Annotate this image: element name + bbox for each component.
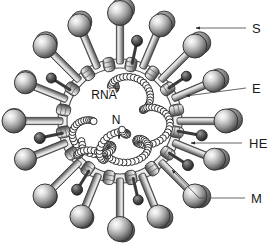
he-knob: [72, 184, 83, 195]
n-protein-bead: [90, 118, 97, 125]
spike-protein: [2, 108, 63, 133]
spike-head: [33, 184, 57, 208]
he-knob: [182, 160, 193, 171]
label-he: HE: [249, 136, 268, 151]
spike-protein: [33, 159, 82, 208]
spike-head: [2, 109, 26, 133]
spike-head: [149, 14, 172, 37]
n-protein-bead: [119, 126, 126, 133]
he-knob: [133, 195, 143, 205]
spike-protein: [171, 69, 229, 102]
spike-protein: [70, 173, 102, 229]
spike-head: [70, 205, 93, 228]
label-rna: RNA: [91, 88, 116, 102]
spike-head: [183, 34, 207, 58]
spike-protein: [33, 32, 82, 84]
he-protein: [132, 35, 143, 63]
spike-head: [14, 148, 36, 170]
spike-head: [203, 70, 225, 92]
spike-head: [68, 14, 91, 37]
spike-protein: [172, 139, 230, 170]
he-protein: [169, 153, 193, 170]
he-knob: [46, 73, 56, 83]
virion-illustration: SEHEM RNARNANN: [0, 0, 273, 243]
spike-protein: [108, 178, 135, 242]
he-protein: [72, 171, 89, 195]
spike-head: [183, 184, 207, 208]
he-knob: [196, 130, 207, 141]
spike-head: [33, 34, 57, 58]
coronavirus-diagram: SEHEM RNARNANN: [0, 0, 273, 243]
spike-head: [14, 72, 36, 94]
label-n: N: [112, 113, 121, 127]
he-knob: [181, 71, 191, 81]
spike-protein: [139, 11, 175, 70]
label-e: E: [252, 81, 261, 96]
spike-head: [108, 1, 133, 26]
spike-protein: [14, 70, 68, 103]
spike-protein: [68, 11, 101, 70]
he-protein: [46, 73, 70, 90]
he-knob: [34, 133, 45, 144]
spike-head: [147, 205, 170, 228]
label-s: S: [252, 21, 261, 36]
spike-protein: [177, 108, 243, 133]
spike-head: [214, 109, 238, 133]
spike-head: [108, 217, 133, 242]
label-m: M: [251, 191, 262, 206]
spike-head: [204, 148, 226, 170]
he-knob: [132, 35, 143, 46]
spike-protein: [108, 0, 135, 64]
